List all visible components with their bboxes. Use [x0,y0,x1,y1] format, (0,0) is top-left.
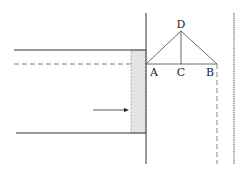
line-AD [146,31,181,64]
label-A: A [149,66,159,79]
label-B: B [206,66,214,79]
shaded-block [131,50,146,133]
label-C: C [177,66,185,79]
diagram-canvas: D A C B [0,0,244,170]
line-DB [181,31,217,64]
arrow-head-icon [124,108,129,112]
label-D: D [177,18,186,31]
